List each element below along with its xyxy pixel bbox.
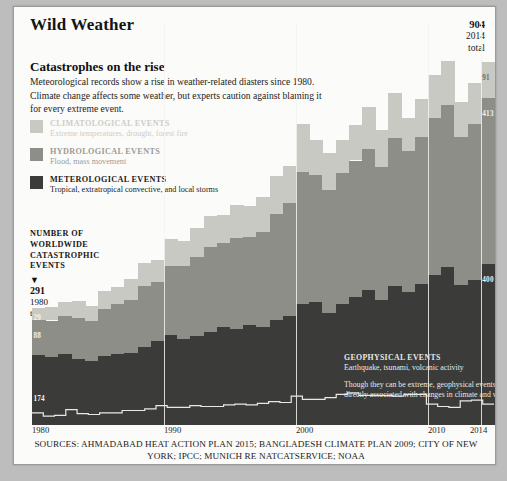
geophysical-note-body: Though they can be extreme, geophysical …: [344, 380, 496, 401]
infographic-page: Wild Weather 904 2014 total Catastrophes…: [0, 0, 507, 481]
x-axis-tick-2014: 2014: [470, 425, 487, 435]
infographic-card: Wild Weather 904 2014 total Catastrophes…: [13, 6, 496, 465]
x-axis-tick-2000: 2000: [296, 425, 313, 435]
bar-label-climatological-1980: 29: [34, 314, 42, 322]
x-axis-tick-1990: 1990: [164, 425, 181, 435]
bar-label-climatological-2014: 91: [482, 74, 490, 82]
stacked-bar-chart: 29 88 174 91 413 400 GEOPHYSICAL EVENTS …: [32, 23, 494, 425]
x-axis: 19801990200020102014: [32, 425, 494, 439]
geophysical-note-subtitle: Earthquake, tsunami, volcanic activity: [344, 363, 496, 373]
sources-note: SOURCES: AHMADABAD HEAT ACTION PLAN 2015…: [30, 439, 482, 463]
bar-label-meteorological-1980: 174: [34, 395, 45, 403]
bar-label-meteorological-2014: 400: [482, 276, 493, 284]
x-axis-tick-1980: 1980: [32, 425, 49, 435]
bar-label-hydrological-2014: 413: [482, 110, 493, 118]
geophysical-note-title: GEOPHYSICAL EVENTS: [344, 353, 496, 362]
x-axis-tick-2010: 2010: [428, 425, 445, 435]
geophysical-note: GEOPHYSICAL EVENTS Earthquake, tsunami, …: [344, 353, 496, 401]
bar-label-hydrological-1980: 88: [34, 332, 42, 340]
